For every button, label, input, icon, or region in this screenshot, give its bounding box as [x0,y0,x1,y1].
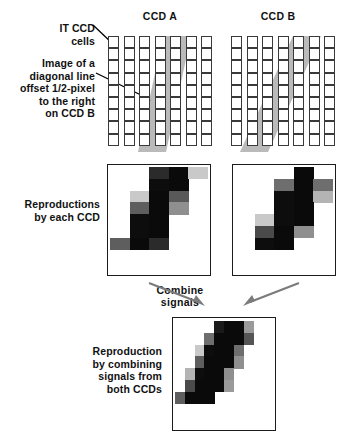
ccd-a-cell [108,60,119,72]
repro-combined-pixel [185,380,195,392]
ccd-b-cell [293,134,304,146]
repro-combined-pixel [234,356,244,368]
repro-combined-pixel [185,392,195,404]
ccd-b-cell [309,97,320,109]
ccd-b-cell [278,73,289,85]
ccd-b-cell [324,85,335,97]
ccd-a-cell [124,60,135,72]
ccd-b-cell [324,48,335,60]
ccd-a-cell [155,121,166,133]
ccd-a-columns [108,36,214,152]
it-ccd-cells-label-line1: IT CCD [10,22,95,35]
ccd-a-cell [124,134,135,146]
ccd-a-cell [124,48,135,60]
ccd-b-cell [231,134,242,146]
ccd-a-cell [124,121,135,133]
repro-a-pixel [188,167,208,179]
ccd-a-cell [186,73,197,85]
ccd-b-cell [231,73,242,85]
final-reproduction-label-line4: both CCDs [50,383,162,396]
ccd-a-cell [170,97,181,109]
ccd-b-column [293,36,304,146]
ccd-a-column [201,36,212,146]
repro-combined-pixel [234,333,244,345]
repro-a-pixel [169,167,189,179]
repro-combined-pixel [204,368,214,380]
ccd-b-cell [262,60,273,72]
repro-combined-pixel [234,321,244,333]
ccd-b-cell [278,36,289,48]
repro-a-pixel [149,238,169,250]
ccd-a-cell [108,121,119,133]
ccd-a-cell [108,134,119,146]
reproduction-combined-box [172,317,276,431]
repro-a-pixel [130,226,150,238]
reproductions-label-line1: Reproductions [2,198,100,211]
ccd-b-cell [247,134,258,146]
diagonal-line-label-line3: offset 1/2-pixel [2,82,95,95]
ccd-a-cell [170,85,181,97]
repro-a-pixel [149,214,169,226]
ccd-b-cell [324,97,335,109]
ccd-b-cell [262,109,273,121]
ccd-b-cell [231,36,242,48]
ccd-a-cell [201,109,212,121]
repro-b-pixel [255,214,275,226]
repro-combined-pixel [214,356,224,368]
reproductions-label: Reproductions by each CCD [2,198,100,223]
repro-combined-pixel [204,333,214,345]
ccd-a-cell [139,134,150,146]
ccd-b-cell [247,48,258,60]
ccd-a-title: CCD A [110,10,210,22]
ccd-a-cell [186,36,197,48]
repro-combined-pixel [214,380,224,392]
ccd-a-cell [186,121,197,133]
ccd-a-cell [155,97,166,109]
repro-a-pixel [169,202,189,214]
ccd-b-cell [324,134,335,146]
repro-combined-pixel [175,392,185,404]
ccd-b-column [247,36,258,146]
repro-a-pixel [149,191,169,203]
ccd-b-cell [278,48,289,60]
ccd-b-column [324,36,335,146]
ccd-b-cell [231,109,242,121]
ccd-a-cell [155,36,166,48]
ccd-b-cell [231,60,242,72]
ccd-b-cell [247,121,258,133]
ccd-b-cell [231,85,242,97]
ccd-b-cell [293,85,304,97]
repro-a-pixel [149,226,169,238]
ccd-b-cell [247,85,258,97]
ccd-b-column [231,36,242,146]
ccd-a-column [155,36,166,146]
ccd-a-column [108,36,119,146]
ccd-a-cell [201,121,212,133]
repro-b-pixel [255,226,275,238]
ccd-b-cell [262,85,273,97]
diagonal-line-label-line5: on CCD B [2,107,95,120]
ccd-b-cell [262,73,273,85]
repro-combined-pixel [214,368,224,380]
it-ccd-cells-label-line2: cells [10,35,95,48]
ccd-b-column [309,36,320,146]
ccd-a-cell [201,97,212,109]
ccd-a-column [124,36,135,146]
ccd-a-cell [186,134,197,146]
ccd-b-cell [278,121,289,133]
ccd-b-cell [324,60,335,72]
ccd-a-cell [108,85,119,97]
ccd-b-cell [231,97,242,109]
ccd-a-cell [139,85,150,97]
repro-combined-pixel [204,392,214,404]
ccd-b-cell [293,97,304,109]
repro-b-pixel [313,179,333,191]
ccd-a-cell [170,134,181,146]
ccd-b-cell [247,60,258,72]
repro-b-pixel [274,214,294,226]
repro-combined-pixel [224,356,234,368]
combine-arrow-left [148,282,208,311]
repro-combined-pixel [214,333,224,345]
ccd-a-cell [155,73,166,85]
repro-combined-pixel [195,356,205,368]
